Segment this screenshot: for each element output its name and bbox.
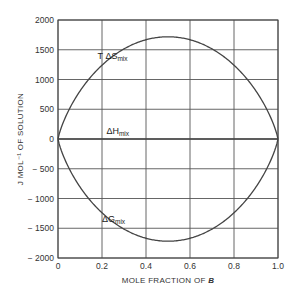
mixing-thermodynamics-chart: 2000150010005000− 500− 1000− 1500− 2000 … <box>0 0 293 301</box>
y-tick-label: 2000 <box>35 15 54 25</box>
x-tick-label: 0 <box>56 261 61 271</box>
y-axis-ticks: 2000150010005000− 500− 1000− 1500− 2000 <box>28 15 55 263</box>
label-t-delta-s-mix: T ΔSmix <box>98 51 129 62</box>
x-tick-label: 0.4 <box>140 261 152 271</box>
x-axis-title: MOLE FRACTION OF B <box>122 276 215 285</box>
t-delta-s-mix-curve <box>58 37 278 139</box>
data-curves <box>58 37 278 241</box>
delta-g-mix-curve <box>58 139 278 241</box>
y-tick-label: 1000 <box>35 75 54 85</box>
y-tick-label: − 500 <box>32 164 54 174</box>
y-tick-label: − 2000 <box>28 253 55 263</box>
y-tick-label: 1500 <box>35 45 54 55</box>
y-tick-label: − 1500 <box>28 223 55 233</box>
y-axis-title: J MOL⁻¹ OF SOLUTION <box>16 93 25 185</box>
x-tick-label: 0.6 <box>184 261 196 271</box>
x-tick-label: 1.0 <box>272 261 284 271</box>
x-tick-label: 0.2 <box>96 261 108 271</box>
x-axis-ticks: 00.20.40.60.81.0 <box>56 261 285 271</box>
y-tick-label: 500 <box>40 104 54 114</box>
y-tick-label: − 1000 <box>28 194 55 204</box>
label-delta-g-mix: ΔGmix <box>102 214 126 225</box>
label-delta-h-mix: ΔHmix <box>106 126 129 137</box>
y-tick-label: 0 <box>49 134 54 144</box>
x-tick-label: 0.8 <box>228 261 240 271</box>
